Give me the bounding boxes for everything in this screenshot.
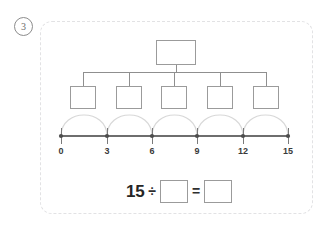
tick-label-12: 12 (232, 147, 254, 156)
group-answer-box-5[interactable] (253, 86, 279, 109)
division-equation: 15 ÷ = (126, 178, 232, 204)
tick-label-0: 0 (50, 147, 72, 156)
group-answer-box-1[interactable] (70, 86, 96, 109)
division-symbol: ÷ (147, 184, 157, 198)
equation-dividend: 15 (126, 183, 144, 200)
tick-label-6: 6 (141, 147, 163, 156)
divisor-answer-box[interactable] (160, 180, 188, 203)
group-answer-box-4[interactable] (207, 86, 233, 109)
total-answer-box[interactable] (156, 40, 196, 65)
tick-label-3: 3 (96, 147, 118, 156)
quotient-answer-box[interactable] (204, 180, 232, 203)
equals-symbol: = (191, 184, 201, 198)
group-answer-box-2[interactable] (116, 86, 142, 109)
tick-label-9: 9 (186, 147, 208, 156)
tick-label-15: 15 (277, 147, 299, 156)
question-number-label: 3 (21, 22, 26, 32)
group-answer-box-3[interactable] (161, 86, 187, 109)
question-number-badge: 3 (14, 17, 33, 36)
